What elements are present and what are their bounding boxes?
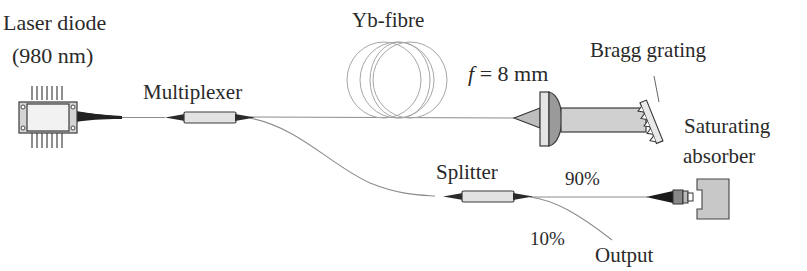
laser-diode-wavelength-label: (980 nm) — [12, 43, 93, 68]
ratio-10-label: 10% — [530, 228, 565, 249]
focal-length-value: = 8 mm — [474, 61, 548, 86]
lens-icon — [514, 92, 562, 146]
fibre-multiplexer-to-splitter — [250, 118, 435, 196]
saturating-absorber-label-line1: Saturating — [684, 114, 771, 138]
fibre-laser-to-multiplexer — [76, 111, 165, 122]
splitter-icon — [443, 191, 533, 202]
laser-diode-icon — [19, 86, 77, 148]
saturating-absorber-icon — [646, 179, 729, 219]
fibre-laser-diagram: Laser diode (980 nm) Multiplexer Yb-fibr… — [0, 0, 807, 271]
output-label: Output — [595, 243, 654, 267]
bragg-grating-label: Bragg grating — [590, 38, 707, 62]
focal-length-label: f = 8 mm — [468, 61, 548, 86]
multiplexer-icon — [165, 112, 255, 123]
bragg-grating-mount — [561, 108, 646, 132]
saturating-absorber-label-line2: absorber — [683, 144, 755, 168]
yb-fibre-coil — [347, 42, 447, 118]
laser-diode-label: Laser diode — [3, 10, 106, 35]
splitter-label: Splitter — [436, 160, 498, 184]
multiplexer-label: Multiplexer — [143, 80, 242, 104]
yb-fibre-label: Yb-fibre — [352, 8, 424, 32]
ratio-90-label: 90% — [565, 168, 600, 189]
bragg-grating-icon — [635, 76, 663, 145]
